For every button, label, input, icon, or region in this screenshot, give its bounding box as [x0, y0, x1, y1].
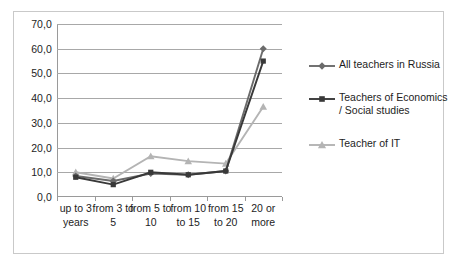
data-point-marker [261, 58, 266, 63]
data-point-marker [111, 182, 116, 187]
y-axis-tick-label: 20,0 [31, 142, 52, 154]
y-axis-tick-label: 10,0 [31, 166, 52, 178]
y-axis-tick-label: 60,0 [31, 43, 52, 55]
x-axis-tickmark [95, 197, 96, 201]
data-point-marker [319, 96, 325, 102]
x-axis-tickmark [57, 197, 58, 201]
data-point-marker [259, 103, 267, 110]
legend-item[interactable]: Teacher of IT [309, 137, 449, 151]
y-axis-tick-label: 50,0 [31, 67, 52, 79]
x-axis-category-label: 20 or more [241, 202, 285, 229]
diamond-marker-icon [309, 61, 335, 71]
x-axis-tickmark [282, 197, 283, 201]
legend-item[interactable]: Teachers of Economics / Social studies [309, 91, 449, 118]
legend-label: Teachers of Economics / Social studies [339, 91, 449, 118]
square-marker-icon [309, 94, 335, 104]
x-axis-labels: up to 3 yearsfrom 3 to 5from 5 to 10from… [57, 202, 282, 258]
y-axis-tick-label: 70,0 [31, 18, 52, 30]
data-point-marker [148, 170, 153, 175]
y-axis-tick-label: 30,0 [31, 117, 52, 129]
chart-frame: 0,010,020,030,040,050,060,070,0 up to 3 … [13, 11, 444, 254]
x-axis-tickmark [132, 197, 133, 201]
x-axis-tickmark [245, 197, 246, 201]
series-line [76, 61, 264, 185]
legend-label: Teacher of IT [339, 137, 449, 151]
data-point-marker [318, 62, 326, 70]
legend-label: All teachers in Russia [339, 58, 449, 72]
series-line [76, 49, 264, 181]
data-point-marker [223, 168, 228, 173]
triangle-marker-icon [309, 140, 335, 150]
series-layer [57, 24, 282, 197]
data-point-marker [73, 175, 78, 180]
x-axis-tickmark [170, 197, 171, 201]
legend-item[interactable]: All teachers in Russia [309, 58, 449, 72]
plot-region: 0,010,020,030,040,050,060,070,0 [57, 24, 282, 197]
data-point-marker [260, 45, 267, 52]
y-axis-tick-label: 40,0 [31, 92, 52, 104]
chart-legend: All teachers in RussiaTeachers of Econom… [309, 58, 449, 169]
plot-area: 0,010,020,030,040,050,060,070,0 [57, 24, 282, 197]
y-axis-tick-label: 0,0 [37, 191, 52, 203]
data-point-marker [186, 172, 191, 177]
x-axis-tickmark [207, 197, 208, 201]
